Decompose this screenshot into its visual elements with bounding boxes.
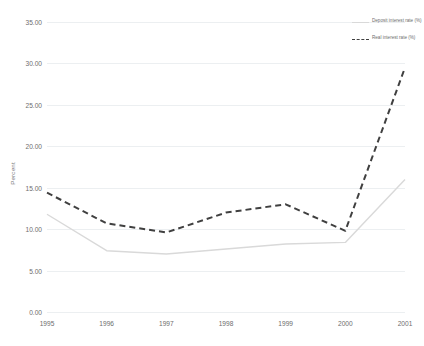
chart-legend: Deposit interest rate (%) Real interest … [352,18,422,52]
y-axis-title-label: Percent [9,162,16,185]
line-chart: Percent 0.005.0010.0015.0020.0025.0030.0… [0,0,424,346]
y-axis-tick-label: 20.00 [25,143,42,150]
plot-area: 0.005.0010.0015.0020.0025.0030.0035.00 1… [47,22,405,312]
legend-entry-deposit-interest-rate: Deposit interest rate (%) [352,18,422,26]
x-axis-tick-label: 2001 [398,320,413,327]
legend-label: Real interest rate (%) [372,35,415,42]
y-axis-tick-label: 15.00 [25,184,42,191]
series-lines [47,22,405,312]
x-axis-tick-label: 2000 [338,320,353,327]
x-axis-tick-label: 1996 [99,320,114,327]
x-axis-tick-label: 1995 [40,320,55,327]
y-axis-tick-label: 0.00 [29,309,42,316]
x-axis-tick-label: 1997 [159,320,174,327]
y-axis-tick-label: 5.00 [29,267,42,274]
series-line [47,68,405,233]
legend-swatch-dashed-line-icon [352,35,369,43]
y-axis-tick-label: 10.00 [25,226,42,233]
y-axis-tick-label: 30.00 [25,60,42,67]
x-axis-tick-label: 1999 [278,320,293,327]
x-axis-tick-label: 1998 [219,320,234,327]
y-axis-tick-label: 35.00 [25,19,42,26]
legend-swatch-solid-line-icon [352,18,369,26]
legend-entry-real-interest-rate: Real interest rate (%) [352,35,422,43]
gridline [47,312,405,313]
y-axis-title: Percent [4,0,20,346]
y-axis-tick-label: 25.00 [25,101,42,108]
legend-label: Deposit interest rate (%) [372,18,422,25]
